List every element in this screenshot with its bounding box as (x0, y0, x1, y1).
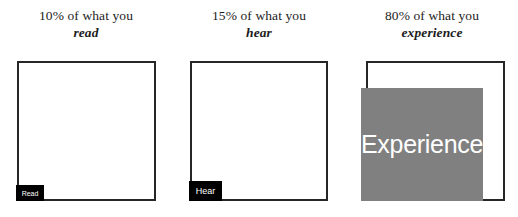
panel-read: 10% of what you read Read (0, 0, 172, 217)
panel-hear: 15% of what you hear Hear (173, 0, 345, 217)
box-read (17, 61, 156, 201)
caption-read-line2: read (0, 25, 172, 41)
caption-hear-line2: hear (173, 25, 345, 41)
fill-label-read: Read (22, 190, 39, 197)
fill-bar-experience: Experience (361, 88, 483, 201)
caption-read-line1: 10% of what you (0, 8, 172, 24)
caption-read: 10% of what you read (0, 8, 172, 41)
learning-retention-infographic: 10% of what you read Read 15% of what yo… (0, 0, 518, 217)
fill-label-experience: Experience (361, 132, 483, 157)
panel-experience: 80% of what you experience Experience (346, 0, 518, 217)
caption-experience-line1: 80% of what you (346, 8, 518, 24)
caption-hear-line1: 15% of what you (173, 8, 345, 24)
fill-label-hear: Hear (196, 187, 216, 196)
caption-hear: 15% of what you hear (173, 8, 345, 41)
fill-bar-hear: Hear (189, 181, 222, 201)
box-hear (190, 61, 328, 201)
fill-bar-read: Read (16, 185, 44, 201)
caption-experience: 80% of what you experience (346, 8, 518, 41)
caption-experience-line2: experience (346, 25, 518, 41)
